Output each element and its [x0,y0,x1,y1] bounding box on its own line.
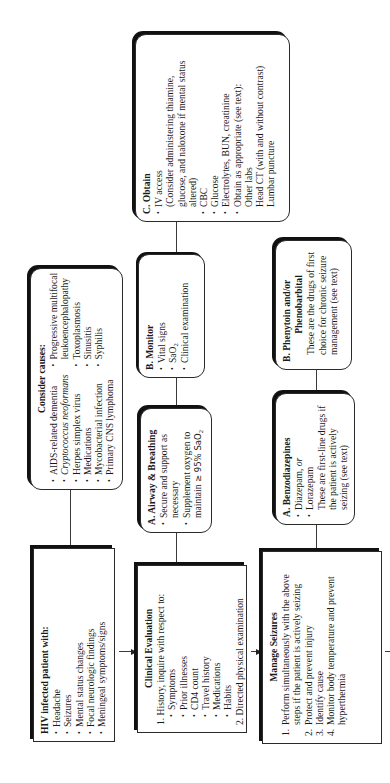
list-item-continuation: (Consider administering thiamine, [164,41,175,214]
hiv-box-title: HIV infected patient with: [39,555,50,734]
list-item-continuation: leukoencephalopathy [59,273,70,367]
pheny-box-title-2: Phenobarbital [293,247,304,362]
list-item: Supplement oxygen tomaintain ≥ 95% SaO2 [181,415,204,525]
step-number: 3. [314,729,325,736]
list-item: Secure and support asnecessary [158,415,180,525]
list-item-continuation: Lumbar puncture [265,41,276,214]
airway-item-1b: necessary [169,481,180,518]
list-item: Obtain as appropriate (see text): [232,41,243,214]
list-item: Syphilis [93,273,104,367]
airway-item-2c: ≥ 95% SaO [193,433,203,482]
step-number: 1. [280,729,291,736]
hiv-symptom-list: Headache Seizures Mental status changes … [51,555,107,734]
list-item: Symptoms [166,572,177,717]
monitor-box-title: B. Monitor [144,261,155,370]
list-item: Focal neurologic findings [85,555,96,734]
list-item-continuation: Other labs [243,41,254,214]
airway-item-2b: maintain [192,484,203,518]
causes-list-right: Progressive multifocal leukoencephalopat… [48,273,115,367]
list-item: Habits [222,572,233,717]
connector-clinical-to-airway [176,533,177,565]
pheny-box-title-1: B. Phenytoin and/or [281,247,292,362]
connector-airway-to-monitor [176,378,177,408]
airway-box-title: A. Airway & Breathing [146,415,157,525]
step-text: Identify cause [314,671,325,725]
benzo-note: These are first-line drugs if the patien… [316,400,350,517]
benzo-list: Diazepam, or Lorazepam [293,400,315,517]
list-item-continuation: Head CT (with and without contrast) [254,41,265,214]
monitor-box: B. Monitor Vital signs SaO2 Clinical exa… [138,254,205,378]
connector-seizures-down [385,651,390,652]
list-item: Prior illnesses [178,572,189,717]
list-item: AIDS-related dementia [48,375,59,482]
step-text: Monitor body temperature and prevent hyp… [325,576,347,725]
list-item: Herpes simplex virus [71,375,82,482]
connector-monitor-to-obtain [176,222,177,254]
obtain-box-title: C. Obtain [141,41,152,214]
clinical-box-title: Clinical Evaluation [143,572,154,725]
list-item: 2.Protect and prevent injury [303,558,314,736]
clinical-evaluation-box: Clinical Evaluation 1. History, inquire … [137,565,247,733]
list-item: Sinusitis [82,273,93,367]
benzo-box-title: A. Benzodiazepines [281,400,292,517]
list-item-continuation: glucose, and naloxone if mental status [176,41,187,214]
subscript: 2 [197,430,204,433]
list-item: Lorazepam [304,400,315,517]
list-item: Mycobacterial infection [93,375,104,482]
list-item: Glucose [209,41,220,214]
pheny-note: These are the drugs of first choice for … [305,247,339,362]
list-item: 3.Identify cause [314,558,325,736]
obtain-list: IV access (Consider administering thiami… [153,41,276,214]
list-item: CD4 count [189,572,200,717]
step-text: Perform simultaneously with the above st… [280,574,302,725]
phenytoin-box: B. Phenytoin and/or Phenobarbital These … [275,240,352,370]
seizures-steps: 1.Perform simultaneously with the above … [280,558,347,736]
sao2-text: SaO [167,346,178,363]
physical-exam-step: 2. Directed physical examination [234,572,245,725]
causes-list-left: AIDS-related dementia Cryptococcus neofo… [48,375,115,482]
airway-item-2a: Supplement oxygen to [181,432,192,518]
airway-item-1a: Secure and support as [158,434,169,518]
seizures-box-title: Manage Seizures [268,558,279,736]
benzodiazepines-box: A. Benzodiazepines Diazepam, or Lorazepa… [275,393,355,525]
list-item: CBC [198,41,209,214]
list-item: Medications [211,572,222,717]
hiv-patient-box: HIV infected patient with: Headache Seiz… [33,548,115,742]
manage-seizures-box: Manage Seizures 1.Perform simultaneously… [262,551,382,744]
list-item: Medications [82,375,93,482]
list-item: Travel history [200,572,211,717]
cryptococcus-text: Cryptococcus [59,422,70,475]
list-item: SaO2 [167,261,178,370]
list-item: 4.Monitor body temperature and prevent h… [325,558,347,736]
causes-box-title: Consider causes: [36,275,47,482]
step-text: Protect and prevent injury [303,625,314,725]
list-item: 1.Perform simultaneously with the above … [280,558,302,736]
neoformans-text: neoformans [59,375,70,420]
list-item: Primary CNS lymphoma [104,375,115,482]
connector-benzo-to-pheny [316,370,317,393]
list-item: Meningeal symptoms/signs [96,555,107,734]
obtain-box: C. Obtain IV access (Consider administer… [135,34,290,222]
list-item: Seizures [62,555,73,734]
airway-breathing-box: A. Airway & Breathing Secure and support… [140,408,212,533]
airway-list: Secure and support asnecessary Supplemen… [158,415,204,525]
list-item: Toxoplasmosis [71,273,82,367]
list-item: Progressive multifocal [48,273,59,367]
list-item: Vital signs [156,261,167,370]
list-item: IV access [153,41,164,214]
step-number: 2. [303,729,314,736]
list-item: Cryptococcus neoformans [59,375,70,482]
monitor-list: Vital signs SaO2 Clinical examination [156,261,190,370]
connector-seizures-to-benzo [316,525,317,551]
consider-causes-box: Consider causes: AIDS-related dementia C… [30,268,123,490]
list-item: Headache [51,555,62,734]
diazepam-text: Diazepam, [293,469,304,510]
history-step: 1. History, inquire with respect to: [155,572,166,725]
history-list: Symptoms Prior illnesses CD4 count Trave… [166,572,233,725]
list-item: Clinical examination [179,261,190,370]
list-item: Diazepam, or [293,400,304,517]
list-item: Mental status changes [74,555,85,734]
step-number: 4. [325,729,336,736]
flowchart-canvas: HIV infected patient with: Headache Seiz… [0,0,390,783]
list-item: Electrolytes, BUN, creatinine [220,41,231,214]
